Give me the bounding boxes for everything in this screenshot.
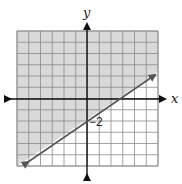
- y-intercept-label: −2: [89, 115, 103, 129]
- inequality-graph: x y −2: [0, 0, 182, 184]
- y-axis-label: y: [82, 5, 91, 20]
- x-axis-label: x: [171, 91, 179, 106]
